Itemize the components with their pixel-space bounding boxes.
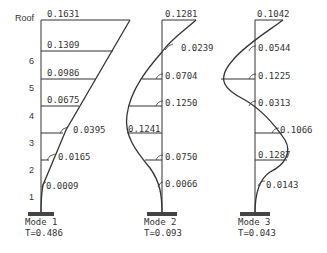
mode3-base [240, 212, 270, 216]
mode1-value-5: 0.0986 [47, 68, 80, 78]
floor-label-roof: Roof [12, 13, 34, 23]
floor-label-1: 1 [12, 192, 34, 202]
mode1-value-3: 0.0395 [73, 125, 106, 135]
mode2-value-3: 0.1241 [128, 124, 161, 134]
mode1-value-6: 0.1309 [47, 40, 80, 50]
mode2-value-4: 0.1250 [165, 98, 198, 108]
mode2-name: Mode 2 [144, 217, 177, 228]
mode2-value-2: 0.0750 [165, 152, 198, 162]
floor-label-5: 5 [12, 83, 34, 93]
floor-label-6: 6 [12, 56, 34, 66]
mode2-value-1: 0.0066 [165, 179, 198, 189]
mode1-name: Mode 1 [25, 217, 58, 228]
mode1-value-4: 0.0675 [47, 95, 80, 105]
floor-label-2: 2 [12, 165, 34, 175]
floor-label-4: 4 [12, 111, 34, 121]
mode3-name: Mode 3 [238, 217, 271, 228]
mode3-value-3: 0.1066 [280, 125, 313, 135]
floor-label-3: 3 [12, 138, 34, 148]
mode1-value-1: 0.0009 [46, 181, 79, 191]
mode2-period: T=0.093 [144, 228, 182, 239]
mode1-period: T=0.486 [25, 228, 63, 239]
mode3-value-6: 0.0544 [258, 43, 291, 53]
mode-shapes-diagram [0, 0, 327, 253]
mode2-value-roof: 0.1281 [165, 9, 198, 19]
mode3-value-1: 0.0143 [266, 180, 299, 190]
mode2-value-6: 0.0239 [181, 43, 214, 53]
mode2-value-5: 0.0704 [165, 71, 198, 81]
mode2-base [147, 212, 177, 216]
mode3-value-roof: 0.1042 [257, 9, 290, 19]
mode3-value-4: 0.0313 [258, 98, 291, 108]
mode3-value-2: 0.1287 [258, 150, 291, 160]
mode3-period: T=0.043 [238, 228, 276, 239]
mode1-value-2: 0.0165 [58, 152, 91, 162]
mode1-value-roof: 0.1631 [47, 9, 80, 19]
mode3-value-5: 0.1225 [258, 71, 291, 81]
mode1-base [28, 212, 54, 216]
